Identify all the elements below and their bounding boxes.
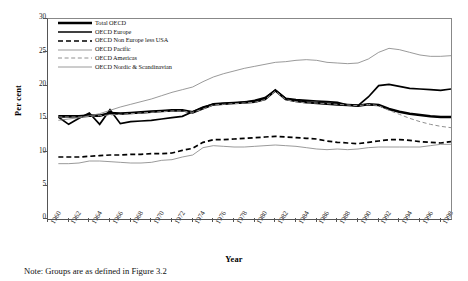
legend-label: OECD Europe <box>95 29 131 36</box>
legend-item: OECD Non Europe less USA <box>58 37 208 45</box>
legend-label: OECD Pacific <box>95 46 131 53</box>
figure-note: Note: Groups are as defined in Figure 3.… <box>24 266 167 276</box>
legend-item: OECD Americas <box>58 54 208 62</box>
series-line <box>58 84 451 124</box>
legend-item: Total OECD <box>58 19 208 27</box>
series-line <box>58 90 451 117</box>
legend-item: OECD Europe <box>58 28 208 36</box>
legend-label: OECD Americas <box>95 55 137 62</box>
legend-swatch-icon <box>58 54 92 62</box>
figure-root: 051015202530 Per cent 196019621964196619… <box>0 0 468 281</box>
legend-swatch-icon <box>58 46 92 54</box>
legend-swatch-icon <box>58 19 92 27</box>
legend-label: Total OECD <box>95 20 126 27</box>
legend-swatch-icon <box>58 63 92 71</box>
legend: Total OECDOECD EuropeOECD Non Europe les… <box>58 19 208 72</box>
x-axis-title: Year <box>0 255 468 264</box>
legend-item: OECD Pacific <box>58 45 208 53</box>
legend-label: OECD Nordic & Scandinavian <box>95 64 172 71</box>
legend-swatch-icon <box>58 28 92 36</box>
legend-swatch-icon <box>58 37 92 45</box>
legend-label: OECD Non Europe less USA <box>95 37 168 44</box>
legend-item: OECD Nordic & Scandinavian <box>58 63 208 71</box>
series-line <box>58 144 451 163</box>
